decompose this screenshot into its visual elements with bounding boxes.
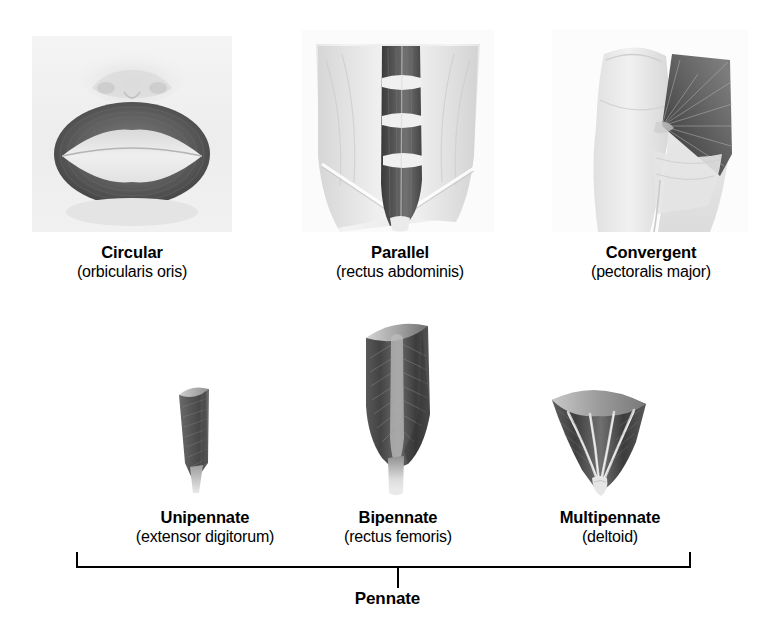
- caption-circular: Circular (orbicularis oris): [30, 243, 234, 282]
- bipennate-muscle-rectus-femoris-illustration: [344, 318, 448, 496]
- convergent-muscle-pectoralis-major-illustration: [552, 30, 748, 232]
- caption-subtitle-convergent: (pectoralis major): [546, 263, 756, 282]
- pennate-group-bracket: [76, 552, 691, 568]
- bracket-horizontal-rule: [76, 566, 691, 568]
- caption-subtitle-bipennate: (rectus femoris): [300, 528, 496, 547]
- caption-subtitle-multipennate: (deltoid): [500, 528, 720, 547]
- caption-title-unipennate: Unipennate: [102, 508, 308, 527]
- multipennate-muscle-deltoid-illustration: [538, 378, 660, 500]
- bracket-stem: [397, 566, 399, 588]
- caption-multipennate: Multipennate (deltoid): [500, 508, 720, 547]
- caption-title-convergent: Convergent: [546, 243, 756, 262]
- caption-subtitle-unipennate: (extensor digitorum): [102, 528, 308, 547]
- caption-bipennate: Bipennate (rectus femoris): [300, 508, 496, 547]
- caption-subtitle-circular: (orbicularis oris): [30, 263, 234, 282]
- parallel-muscle-rectus-abdominis-illustration: [302, 30, 494, 232]
- caption-title-multipennate: Multipennate: [500, 508, 720, 527]
- caption-subtitle-parallel: (rectus abdominis): [298, 263, 502, 282]
- bracket-tick-right: [689, 552, 691, 568]
- caption-title-circular: Circular: [30, 243, 234, 262]
- caption-parallel: Parallel (rectus abdominis): [298, 243, 502, 282]
- circular-muscle-orbicularis-oris-illustration: [32, 36, 232, 232]
- caption-unipennate: Unipennate (extensor digitorum): [102, 508, 308, 547]
- caption-convergent: Convergent (pectoralis major): [546, 243, 756, 282]
- caption-title-parallel: Parallel: [298, 243, 502, 262]
- caption-title-bipennate: Bipennate: [300, 508, 496, 527]
- muscle-fiber-arrangement-figure: Circular (orbicularis oris): [0, 0, 775, 628]
- unipennate-muscle-extensor-digitorum-illustration: [168, 383, 230, 495]
- pennate-group-label: Pennate: [0, 589, 775, 609]
